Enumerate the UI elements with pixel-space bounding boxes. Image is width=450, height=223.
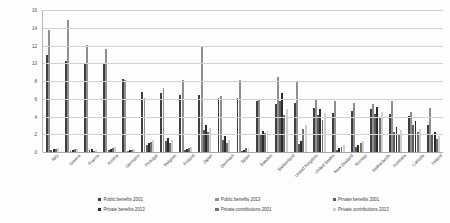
y-axis-tick-label: 12 (32, 43, 37, 48)
bar (362, 141, 364, 152)
legend-label: Private contributions 2013 (338, 207, 389, 212)
y-axis-tick-label: 6 (35, 96, 37, 101)
bar (144, 98, 146, 152)
y-axis-tick-label: 4 (35, 114, 37, 119)
x-axis-labels: ItalyGreeceFranceAustriaGermanyPortugalB… (42, 152, 443, 192)
x-axis-label: Sweden (252, 152, 271, 192)
legend-item[interactable]: Private contributions 2001 (215, 205, 328, 214)
x-axis-label: Spain (233, 152, 252, 192)
legend-swatch (333, 208, 336, 211)
legend-swatch (333, 198, 336, 201)
x-axis-label: Greece (61, 152, 80, 192)
gridline (43, 81, 443, 82)
bar (381, 112, 383, 152)
x-axis-label: Japan (195, 152, 214, 192)
x-axis-label-text: France (87, 153, 100, 166)
bar (419, 129, 421, 152)
gridline (43, 99, 443, 100)
bar (305, 125, 307, 153)
x-axis-label: Italy (42, 152, 61, 192)
legend-swatch (98, 208, 101, 211)
plot-area: 0246810121416 (22, 10, 443, 152)
bar (286, 109, 288, 152)
x-axis-label: Canada (405, 152, 424, 192)
x-axis-label: Norway (348, 152, 367, 192)
gridline (43, 10, 443, 11)
y-axis-tick-label: 0 (35, 150, 37, 155)
gridline (43, 46, 443, 47)
bar (67, 20, 69, 152)
bar (343, 145, 345, 152)
bar (438, 136, 440, 152)
legend-label: Public benefits 2001 (103, 197, 143, 202)
legend-swatch (98, 198, 101, 201)
bar (334, 101, 336, 152)
x-axis-label: Austria (99, 152, 118, 192)
y-axis-tick-label: 10 (32, 61, 37, 66)
bar (353, 103, 355, 152)
legend-label: Public benefits 2013 (221, 197, 261, 202)
legend-swatch (215, 198, 218, 201)
legend-label: Private contributions 2001 (221, 207, 272, 212)
bar (324, 113, 326, 152)
gridline (43, 117, 443, 118)
bar (267, 130, 269, 152)
y-axis-tick-label: 8 (35, 79, 37, 84)
x-axis-label: Finland (176, 152, 195, 192)
x-axis-label: Australia (386, 152, 405, 192)
x-axis-label-text: Japan (202, 153, 214, 165)
y-axis-tick-label: 2 (35, 132, 37, 137)
gridline (43, 134, 443, 135)
x-axis-label: Portugal (137, 152, 156, 192)
x-axis-label: Belgium (157, 152, 176, 192)
x-axis-label-text: Finland (182, 153, 195, 166)
x-axis-label: Switzerland (271, 152, 290, 192)
x-axis-label: New Zealand (328, 152, 347, 192)
bar (171, 140, 173, 152)
x-axis-label-text: Italy (50, 153, 59, 162)
x-axis-label: France (80, 152, 99, 192)
bar (105, 49, 107, 152)
x-axis-label: Denmark (214, 152, 233, 192)
x-axis-label-text: Ireland (431, 153, 444, 166)
legend-label: Private benefits 2001 (338, 197, 379, 202)
x-axis-label: United States (309, 152, 328, 192)
x-axis-label: Germany (118, 152, 137, 192)
y-axis-tick-label: 16 (32, 8, 37, 13)
grid-area (42, 10, 443, 152)
y-axis: 0246810121416 (22, 10, 40, 152)
legend-swatch (215, 208, 218, 211)
y-axis-tick-label: 14 (32, 25, 37, 30)
x-axis-label: Ireland (424, 152, 443, 192)
gridline (43, 63, 443, 64)
legend-item[interactable]: Private benefits 2013 (98, 205, 211, 214)
bar (228, 140, 230, 152)
legend-item[interactable]: Private contributions 2013 (333, 205, 446, 214)
legend-item[interactable]: Public benefits 2013 (215, 195, 328, 204)
legend-label: Private benefits 2013 (103, 207, 144, 212)
bar-chart: 0246810121416 ItalyGreeceFranceAustriaGe… (0, 0, 450, 223)
gridline (43, 28, 443, 29)
x-axis-label: Netherlands (367, 152, 386, 192)
x-axis-label: United Kingdom (290, 152, 309, 192)
chart-legend: Public benefits 2001Public benefits 2013… (98, 195, 446, 214)
bar (152, 140, 154, 152)
x-axis-label-text: Austria (106, 153, 119, 166)
bar (400, 130, 402, 152)
legend-item[interactable]: Public benefits 2001 (98, 195, 211, 204)
bar (209, 128, 211, 152)
legend-item[interactable]: Private benefits 2001 (333, 195, 446, 204)
x-axis-label-text: Spain (240, 153, 251, 164)
